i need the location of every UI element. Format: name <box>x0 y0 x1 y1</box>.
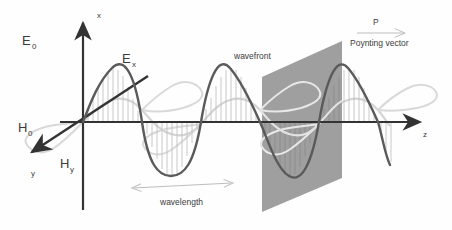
e0-label: E <box>22 33 31 48</box>
h0-label-group: H 0 <box>18 120 33 138</box>
ex-sublabel: x <box>132 60 136 69</box>
em-wave-diagram: z x y wavelength P Poynting vector wavef… <box>0 0 452 230</box>
e0-label-group: E 0 <box>22 33 37 51</box>
poynting-symbol-label: P <box>373 17 379 27</box>
y-axis-label: y <box>31 169 35 178</box>
h-lobe-5 <box>378 85 437 111</box>
e0-sublabel: 0 <box>32 42 37 51</box>
hy-label-group: H y <box>60 156 74 174</box>
h-lobe-1 <box>142 82 202 111</box>
wavelength-label: wavelength <box>159 197 203 207</box>
h0-label: H <box>18 120 27 135</box>
hy-label: H <box>60 156 69 171</box>
y-axis-line <box>32 76 148 152</box>
z-axis-label: z <box>423 130 427 139</box>
h0-sublabel: 0 <box>28 129 33 138</box>
poynting-vector-label: Poynting vector <box>350 38 409 48</box>
diagram-canvas: z x y wavelength P Poynting vector wavef… <box>0 0 452 230</box>
wavefront-label: wavefront <box>233 51 271 61</box>
ex-label: E <box>122 51 131 66</box>
hy-sublabel: y <box>70 165 74 174</box>
wavelength-arrow <box>133 183 232 188</box>
x-axis-label: x <box>97 11 101 20</box>
